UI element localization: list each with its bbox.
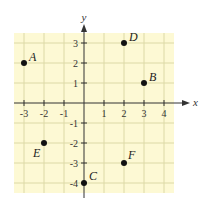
x-axis-arrow-icon bbox=[182, 100, 190, 106]
point-label: E bbox=[32, 146, 41, 160]
x-tick-label: -1 bbox=[60, 108, 68, 119]
point-marker bbox=[81, 180, 87, 186]
y-tick-label: 2 bbox=[73, 58, 78, 69]
y-tick-label: -3 bbox=[70, 158, 78, 169]
point-label: C bbox=[89, 169, 98, 183]
point-marker bbox=[121, 40, 127, 46]
x-axis-label: x bbox=[192, 96, 198, 108]
x-tick-label: -3 bbox=[20, 108, 28, 119]
point-label: F bbox=[127, 148, 136, 162]
y-tick-label: 1 bbox=[73, 78, 78, 89]
y-axis-label: y bbox=[81, 11, 87, 23]
x-tick-label: -2 bbox=[40, 108, 48, 119]
x-tick-label: 2 bbox=[122, 108, 127, 119]
x-tick-label: 4 bbox=[162, 108, 167, 119]
y-tick-label: -4 bbox=[70, 178, 78, 189]
point-marker bbox=[21, 60, 27, 66]
y-tick-label: -1 bbox=[70, 118, 78, 129]
x-tick-label: 1 bbox=[102, 108, 107, 119]
point-label: A bbox=[28, 50, 37, 64]
coordinate-plane: x -3 -2 -1 1 2 3 4 y 3 bbox=[0, 0, 204, 208]
y-axis-arrow-icon bbox=[81, 24, 87, 32]
point-marker bbox=[41, 140, 47, 146]
point-marker bbox=[141, 80, 147, 86]
point-label: D bbox=[128, 30, 138, 44]
point-marker bbox=[121, 160, 127, 166]
x-tick-label: 3 bbox=[142, 108, 147, 119]
y-tick-label: -2 bbox=[70, 138, 78, 149]
y-tick-label: 3 bbox=[73, 38, 78, 49]
point-label: B bbox=[149, 70, 157, 84]
